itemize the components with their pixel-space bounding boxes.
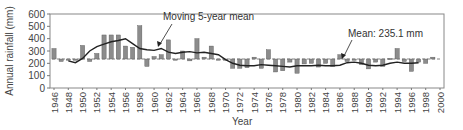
rainfall-bar bbox=[431, 57, 435, 59]
x-tick-label: 2000 bbox=[435, 92, 446, 113]
x-tick-label: 1954 bbox=[106, 92, 117, 113]
y-axis-title-text: Annual rainfall (mm) bbox=[4, 6, 15, 95]
rainfall-bar bbox=[159, 55, 163, 59]
rainfall-bar bbox=[395, 49, 399, 59]
x-tick-label: 1984 bbox=[320, 92, 331, 113]
x-tick-label: 1992 bbox=[377, 92, 388, 113]
x-tick-label: 1968 bbox=[206, 92, 217, 113]
rainfall-bar bbox=[52, 49, 56, 59]
rainfall-bar bbox=[95, 53, 99, 59]
x-tick-label: 1958 bbox=[134, 92, 145, 113]
rainfall-bar bbox=[309, 59, 313, 63]
rainfall-bar bbox=[188, 59, 192, 61]
y-tick-label: 100 bbox=[28, 70, 45, 81]
rainfall-bar bbox=[166, 40, 170, 59]
y-tick-label: 200 bbox=[28, 58, 45, 69]
x-tick-label: 1994 bbox=[392, 92, 403, 113]
rainfall-bar bbox=[402, 59, 406, 61]
x-tick-label: 1970 bbox=[220, 92, 231, 113]
rainfall-bar bbox=[173, 59, 177, 60]
x-tick-label: 1990 bbox=[363, 92, 374, 113]
rainfall-bar bbox=[73, 59, 77, 60]
y-tick-label: 600 bbox=[28, 9, 45, 20]
x-tick-label: 1948 bbox=[63, 92, 74, 113]
rainfall-bar bbox=[416, 59, 420, 62]
rainfall-bar bbox=[388, 58, 392, 59]
rainfall-bar bbox=[266, 50, 270, 59]
y-tick-label: 500 bbox=[28, 21, 45, 32]
rainfall-bar bbox=[409, 59, 413, 71]
x-tick-label: 1966 bbox=[191, 92, 202, 113]
rainfall-bar bbox=[424, 59, 428, 63]
x-tick-label: 1972 bbox=[234, 92, 245, 113]
rainfall-bar bbox=[109, 35, 113, 59]
rainfall-bar bbox=[216, 59, 220, 60]
x-tick-label: 1962 bbox=[163, 92, 174, 113]
rainfall-bar bbox=[281, 59, 285, 71]
rainfall-bar bbox=[302, 59, 306, 64]
x-tick-label: 1982 bbox=[306, 92, 317, 113]
moving-average-line bbox=[68, 39, 418, 67]
x-tick-label: 1952 bbox=[91, 92, 102, 113]
y-tick-label: 300 bbox=[28, 46, 45, 57]
rainfall-bar bbox=[259, 59, 263, 68]
y-tick-label: 400 bbox=[28, 33, 45, 44]
x-tick-label: 1996 bbox=[406, 92, 417, 113]
rainfall-bar bbox=[152, 57, 156, 59]
x-tick-label: 1946 bbox=[49, 92, 60, 113]
rainfall-bar bbox=[66, 59, 70, 60]
rainfall-bar bbox=[345, 59, 349, 61]
rainfall-bar bbox=[352, 59, 356, 60]
rainfall-bar bbox=[366, 59, 370, 69]
mean-annotation: Mean: 235.1 mm bbox=[348, 28, 423, 39]
rainfall-bar bbox=[138, 26, 142, 59]
y-axis-title: Annual rainfall (mm) bbox=[2, 8, 16, 94]
x-tick-label: 1980 bbox=[292, 92, 303, 113]
rainfall-bar bbox=[88, 59, 92, 61]
rainfall-bar bbox=[102, 35, 106, 59]
x-tick-label: 1956 bbox=[120, 92, 131, 113]
x-tick-label: 1998 bbox=[420, 92, 431, 113]
rainfall-bar bbox=[202, 57, 206, 59]
rainfall-bar bbox=[131, 47, 135, 59]
x-tick-label: 1964 bbox=[177, 92, 188, 113]
rainfall-bar bbox=[288, 59, 292, 62]
rainfall-bar bbox=[59, 59, 63, 61]
x-tick-label: 1950 bbox=[77, 92, 88, 113]
x-tick-label: 1988 bbox=[349, 92, 360, 113]
rainfall-bar bbox=[238, 59, 242, 68]
rainfall-bar bbox=[145, 59, 149, 66]
rainfall-bar bbox=[195, 39, 199, 59]
x-tick-label: 1974 bbox=[249, 92, 260, 113]
x-tick-label: 1976 bbox=[263, 92, 274, 113]
mean-arrow bbox=[344, 40, 352, 56]
x-axis-title: Year bbox=[232, 116, 252, 127]
x-tick-label: 1986 bbox=[334, 92, 345, 113]
rainfall-bar bbox=[324, 59, 328, 63]
rainfall-bar bbox=[116, 35, 120, 59]
x-tick-label: 1960 bbox=[149, 92, 160, 113]
rainfall-bar bbox=[123, 46, 127, 59]
x-tick-label: 1978 bbox=[277, 92, 288, 113]
rainfall-bar bbox=[374, 59, 378, 62]
plot-area: 0100200300400500600194619481950195219541… bbox=[28, 9, 445, 114]
moving-average-annotation: Moving 5-year mean bbox=[163, 11, 254, 22]
y-tick-label: 0 bbox=[39, 83, 45, 94]
rainfall-bar bbox=[252, 57, 256, 59]
